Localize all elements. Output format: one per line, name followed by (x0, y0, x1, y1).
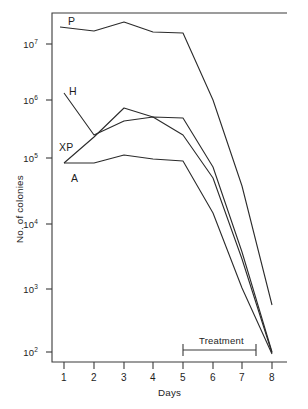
x-tick-label-7: 7 (235, 372, 249, 383)
figure-container: 107 106 105 104 103 102 1 2 3 4 5 6 7 8 … (0, 0, 308, 409)
y-tick-label-1e7: 107 (4, 38, 38, 50)
x-tick-label-8: 8 (265, 372, 279, 383)
x-tick-label-2: 2 (87, 372, 101, 383)
y-tick-label-1e2: 102 (4, 346, 38, 358)
x-axis-title: Days (158, 387, 181, 398)
treatment-annotation-label: Treatment (199, 335, 244, 346)
x-tick-label-3: 3 (117, 372, 131, 383)
curve-label-A: A (71, 172, 78, 184)
series-line-XP (64, 108, 272, 353)
x-tick-label-5: 5 (176, 372, 190, 383)
curve-label-XP: XP (59, 141, 73, 153)
x-tick-label-6: 6 (206, 372, 220, 383)
y-tick-label-1e5: 105 (4, 152, 38, 164)
y-axis-title: No. of colonies (14, 175, 25, 243)
x-axis-ticks (64, 362, 272, 369)
y-axis-ticks (46, 44, 52, 352)
curve-label-P: P (68, 15, 75, 27)
x-tick-label-4: 4 (146, 372, 160, 383)
line-chart (0, 0, 308, 409)
y-tick-label-1e3: 103 (4, 283, 38, 295)
curve-label-H: H (69, 85, 77, 97)
x-tick-label-1: 1 (57, 372, 71, 383)
y-tick-label-1e6: 106 (4, 94, 38, 106)
series-line-H (64, 93, 272, 352)
